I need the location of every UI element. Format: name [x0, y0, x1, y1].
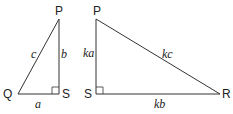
side-b-label: b — [61, 47, 67, 61]
right-angle-marker-2 — [96, 87, 103, 94]
vertex-r: R — [222, 87, 231, 101]
vertex-p-1: P — [55, 4, 63, 18]
triangle-2-outline — [96, 19, 220, 94]
vertex-s-1: S — [62, 87, 70, 101]
side-a-label: a — [35, 97, 41, 111]
triangle-2: P S R ka kc kb — [83, 4, 231, 111]
side-c-label: c — [31, 47, 37, 61]
right-angle-marker-1 — [52, 87, 59, 94]
similar-triangles-diagram: P Q S c b a P S R ka kc kb — [0, 0, 233, 114]
vertex-p-2: P — [93, 4, 101, 18]
side-kc-label: kc — [162, 47, 173, 61]
side-ka-label: ka — [83, 46, 94, 60]
vertex-s-2: S — [84, 87, 92, 101]
triangle-1: P Q S c b a — [3, 4, 70, 111]
side-kb-label: kb — [154, 97, 165, 111]
triangle-1-outline — [18, 19, 59, 94]
vertex-q: Q — [3, 87, 12, 101]
